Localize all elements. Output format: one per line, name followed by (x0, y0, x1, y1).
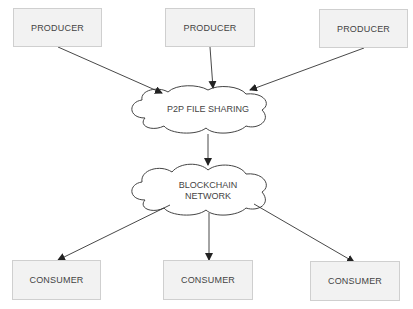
p2p-file-sharing-label: P2P FILE SHARING (150, 104, 266, 115)
consumer-label: CONSUMER (328, 276, 382, 286)
producer-label: PRODUCER (31, 23, 84, 33)
consumer-label: CONSUMER (29, 275, 83, 285)
consumer-label: CONSUMER (181, 275, 235, 285)
consumer-node-1: CONSUMER (12, 260, 101, 300)
producer-node-2: PRODUCER (165, 8, 255, 47)
producer-node-3: PRODUCER (319, 9, 408, 48)
producer-label: PRODUCER (183, 23, 236, 33)
producer-node-1: PRODUCER (13, 8, 102, 47)
blockchain-label-line2: NETWORK (150, 191, 266, 202)
blockchain-network-label: BLOCKCHAIN NETWORK (150, 180, 266, 202)
producer-label: PRODUCER (337, 24, 390, 34)
consumer-node-2: CONSUMER (163, 260, 253, 300)
blockchain-label-line1: BLOCKCHAIN (150, 180, 266, 191)
consumer-node-3: CONSUMER (310, 261, 400, 301)
